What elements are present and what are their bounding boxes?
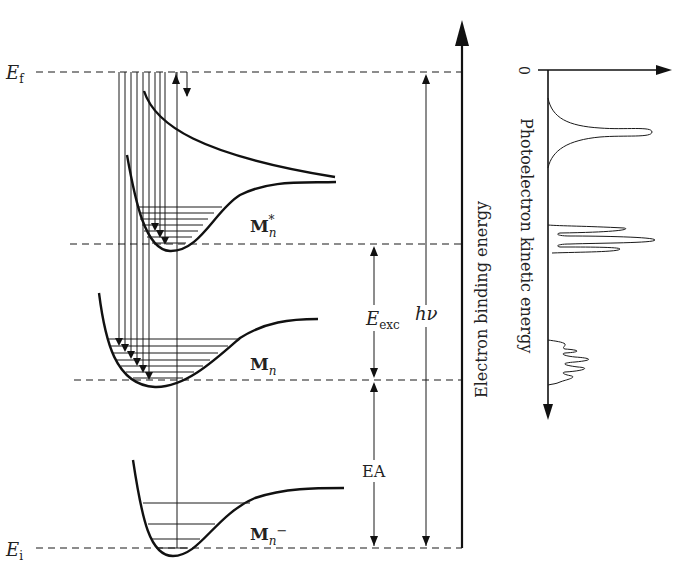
label-e-initial: Ei [5, 539, 23, 563]
label-binding-energy-axis: Electron binding energy [472, 201, 491, 398]
label-m-excited: Mn* [250, 213, 277, 240]
labels: Ef Ei Mn* Mn Mn− Eexc hν EA Electron bin… [5, 62, 536, 563]
binding-energy-axis [455, 20, 469, 548]
label-m-neutral: Mn [250, 354, 277, 378]
label-e-final: Ef [5, 62, 25, 86]
potential-excited [127, 155, 336, 251]
potential-anion [133, 460, 344, 556]
label-hv: hν [415, 303, 438, 324]
photoelectron-energy-diagram: Ef Ei Mn* Mn Mn− Eexc hν EA Electron bin… [0, 0, 699, 579]
label-m-anion: Mn− [250, 523, 287, 548]
repulsive-curve [144, 91, 335, 177]
kinetic-energy-axis [538, 65, 672, 420]
photoelectron-spectrum [548, 98, 655, 385]
label-kinetic-zero: 0 [516, 66, 532, 75]
energy-level-lines [36, 72, 462, 548]
potential-neutral [99, 293, 318, 387]
label-ea: EA [362, 462, 386, 481]
transition-lines [115, 72, 191, 548]
label-kinetic-energy-axis: Photoelectron kinetic energy [517, 118, 536, 353]
